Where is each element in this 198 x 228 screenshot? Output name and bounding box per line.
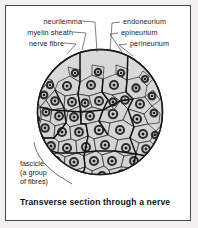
label-epineurium: epineurium xyxy=(121,29,158,37)
label-perineurium: perineurium xyxy=(130,40,169,48)
label-myelin-sheath: myelin sheath xyxy=(4,29,73,37)
label-fascicle-line1: fascicle xyxy=(20,159,44,168)
label-endoneurium: endoneurium xyxy=(123,18,166,26)
label-neurilemma: neurilemma xyxy=(10,18,82,26)
label-fascicle-line2: (a group xyxy=(20,168,47,177)
figure-container: neurilemma myelin sheath nerve fibre end… xyxy=(0,0,198,228)
leader-myelin-sheath xyxy=(73,32,86,50)
label-nerve-fibre: nerve fibre xyxy=(4,40,64,48)
leader-nerve-fibre xyxy=(64,43,76,54)
label-fascicle-line3: of fibres) xyxy=(20,177,48,186)
leader-neurilemma xyxy=(82,21,97,52)
figure-caption: Transverse section through a nerve xyxy=(20,197,170,207)
